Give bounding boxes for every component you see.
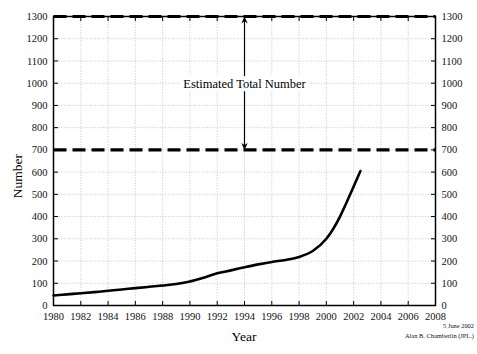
x-tick-label: 1996	[261, 311, 282, 322]
y-tick-label-right: 600	[442, 167, 458, 178]
chart-background	[0, 0, 477, 354]
x-tick-label: 1988	[152, 311, 173, 322]
x-tick-label: 2004	[370, 311, 392, 322]
y-tick-label-right: 800	[442, 122, 458, 133]
x-tick-label: 1982	[70, 311, 91, 322]
y-tick-label-left: 500	[32, 189, 48, 200]
y-tick-label-right: 400	[442, 211, 458, 222]
y-tick-label-right: 1000	[442, 78, 463, 89]
annotation-label: Estimated Total Number	[183, 77, 306, 91]
y-tick-label-left: 1200	[27, 33, 48, 44]
y-axis-label: Number	[10, 153, 25, 198]
x-tick-label: 2006	[398, 311, 419, 322]
x-tick-label: 1992	[207, 311, 228, 322]
x-tick-label: 1994	[234, 311, 256, 322]
y-tick-label-right: 500	[442, 189, 458, 200]
number-vs-year-line-chart: 0100200300400500600700800900100011001200…	[0, 0, 477, 354]
y-tick-label-right: 1100	[442, 56, 463, 67]
y-tick-label-left: 1100	[27, 56, 48, 67]
credit-author: Alan B. Chamberlin (JPL.)	[405, 332, 474, 340]
y-tick-label-left: 800	[32, 122, 48, 133]
x-axis-label: Year	[232, 329, 257, 344]
y-tick-label-left: 1300	[27, 11, 48, 22]
y-tick-label-left: 1000	[27, 78, 48, 89]
y-tick-label-right: 1200	[442, 33, 463, 44]
y-tick-label-right: 0	[442, 300, 447, 311]
y-tick-label-left: 300	[32, 233, 48, 244]
y-tick-label-left: 100	[32, 278, 48, 289]
y-tick-label-left: 0	[42, 300, 47, 311]
y-tick-label-left: 900	[32, 100, 48, 111]
x-tick-label: 1998	[289, 311, 310, 322]
chart-figure: 0100200300400500600700800900100011001200…	[0, 0, 477, 354]
y-tick-label-left: 600	[32, 167, 48, 178]
x-tick-label: 2002	[343, 311, 364, 322]
x-axis-tick-labels: 1980198219841986198819901992199419961998…	[43, 311, 446, 322]
y-tick-label-right: 700	[442, 144, 458, 155]
y-tick-label-right: 300	[442, 233, 458, 244]
x-tick-label: 2008	[425, 311, 446, 322]
y-tick-label-left: 200	[32, 256, 48, 267]
credit-date: 5 June 2002	[443, 322, 474, 329]
y-tick-label-right: 900	[442, 100, 458, 111]
y-tick-label-left: 700	[32, 144, 48, 155]
x-tick-label: 1990	[179, 311, 200, 322]
x-tick-label: 1980	[43, 311, 64, 322]
x-tick-label: 2000	[316, 311, 337, 322]
x-tick-label: 1984	[98, 311, 120, 322]
x-tick-label: 1986	[125, 311, 146, 322]
y-tick-label-right: 100	[442, 278, 458, 289]
y-tick-label-right: 200	[442, 256, 458, 267]
y-tick-label-left: 400	[32, 211, 48, 222]
y-tick-label-right: 1300	[442, 11, 463, 22]
